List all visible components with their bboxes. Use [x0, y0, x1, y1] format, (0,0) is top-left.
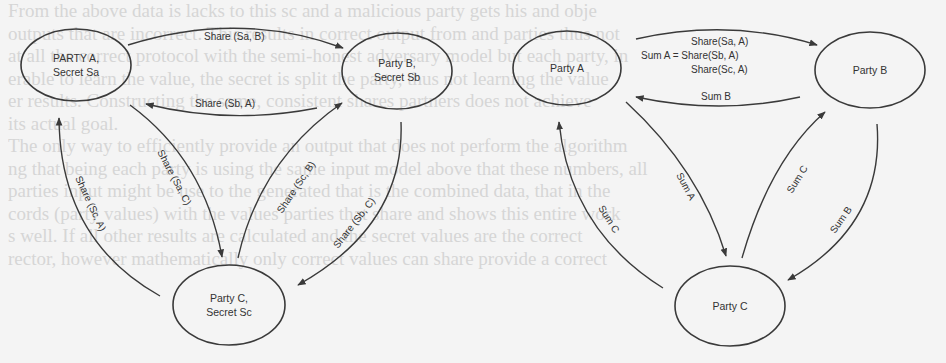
- edge-label: Share (Sa, B): [204, 31, 265, 42]
- edge-share-sc-b: Share (Sc, B): [238, 103, 342, 258]
- node-party-a: PARTY A, Secret Sa: [21, 29, 131, 101]
- edge-sum-b-to-c: Sum B: [788, 124, 878, 280]
- edge-share-sa-c: Share (Sa, C): [130, 105, 222, 257]
- edge-sum-c-to-a: Sum C: [559, 122, 663, 288]
- formula-line-share-sa-a: Share(Sa, A): [691, 36, 748, 47]
- edge-sum-c-to-b: Sum C: [742, 112, 825, 258]
- node-party-c-label: Party C: [712, 300, 747, 312]
- edge-label: Share (Sb, A): [195, 98, 255, 109]
- edge-label: Sum B: [828, 204, 854, 235]
- edge-label: Share (Sa, C): [155, 148, 193, 207]
- edge-share-sa-b: Share (Sa, B): [128, 28, 343, 48]
- node-party-a-label-line1: PARTY A,: [53, 52, 99, 64]
- node-party-a-label: Party A: [550, 62, 584, 74]
- share-phase-diagram: PARTY A, Secret Sa Party B, Secret Sb Pa…: [21, 28, 452, 345]
- node-party-b-label-line2: Secret Sb: [374, 71, 420, 83]
- edge-label: Share (Sc, B): [275, 159, 318, 215]
- formula-line-sum-a: Sum A = Share(Sb, A): [641, 50, 739, 61]
- node-party-b: Party B: [815, 32, 925, 108]
- edge-label: Sum B: [701, 91, 731, 102]
- formula-line-share-sc-a: Share(Sc, A): [691, 64, 748, 75]
- edge-sum-a-formula: Share(Sa, A) Sum A = Share(Sb, A) Share(…: [636, 30, 817, 75]
- edge-label: Sum C: [596, 203, 622, 235]
- edge-share-sb-a: Share (Sb, A): [146, 98, 317, 116]
- edge-sum-b: Sum B: [636, 91, 800, 106]
- sum-phase-diagram: Party A Party B Party C Share(Sa, A) Sum…: [513, 30, 925, 346]
- edge-share-sb-c: Share (Sb, C): [298, 122, 401, 285]
- edge-label: Share (Sb, C): [331, 195, 377, 250]
- node-party-c-label-line1: Party C,: [210, 292, 248, 304]
- edge-sum-a-to-c: Sum A: [626, 102, 726, 256]
- edge-share-sc-a: Share (Sc, A): [59, 118, 160, 296]
- node-party-b-label-line1: Party B,: [378, 57, 415, 69]
- node-party-a: Party A: [513, 31, 621, 105]
- edge-label: Sum A: [674, 171, 698, 202]
- node-party-a-label-line2: Secret Sa: [53, 66, 99, 78]
- node-party-b-label: Party B: [853, 64, 887, 76]
- node-party-b: Party B, Secret Sb: [342, 33, 452, 109]
- node-party-c: Party C: [675, 266, 785, 346]
- node-party-c-label-line2: Secret Sc: [206, 306, 252, 318]
- edge-label: Share (Sc, A): [73, 174, 108, 233]
- edge-label: Sum C: [784, 163, 810, 195]
- secret-sharing-diagrams: PARTY A, Secret Sa Party B, Secret Sb Pa…: [0, 0, 946, 363]
- node-party-c: Party C, Secret Sc: [173, 265, 285, 345]
